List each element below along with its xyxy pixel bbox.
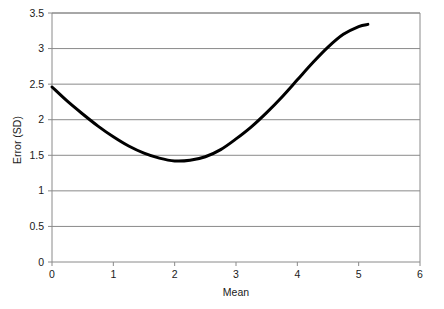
y-tick-label: 1.5 [29, 149, 44, 161]
x-tick-label: 0 [49, 268, 55, 280]
y-tick-label: 0 [38, 256, 44, 268]
x-tick-label: 3 [233, 268, 239, 280]
x-tick-labels: 0123456 [49, 268, 423, 280]
y-tick-label: 3 [38, 42, 44, 54]
y-tick-marks [48, 13, 52, 262]
x-tick-label: 1 [110, 268, 116, 280]
chart-figure: 0123456 00.511.522.533.5 Mean Error (SD) [0, 0, 444, 309]
y-tick-label: 2 [38, 113, 44, 125]
x-tick-label: 5 [356, 268, 362, 280]
x-tick-label: 2 [172, 268, 178, 280]
y-tick-label: 3.5 [29, 7, 44, 19]
x-axis-title: Mean [223, 286, 249, 298]
y-tick-label: 2.5 [29, 78, 44, 90]
y-tick-label: 0.5 [29, 220, 44, 232]
chart-canvas: 0123456 00.511.522.533.5 Mean Error (SD) [0, 0, 444, 309]
y-tick-label: 1 [38, 184, 44, 196]
x-tick-label: 4 [294, 268, 300, 280]
x-tick-label: 6 [417, 268, 423, 280]
y-axis-title: Error (SD) [11, 116, 23, 164]
y-tick-labels: 00.511.522.533.5 [29, 7, 44, 268]
x-tick-marks [52, 262, 420, 266]
